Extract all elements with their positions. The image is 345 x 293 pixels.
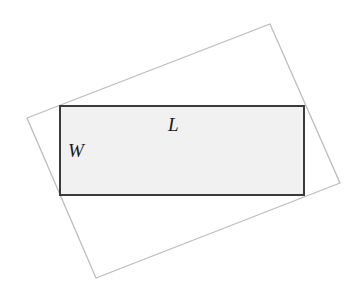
length-label: L bbox=[167, 114, 179, 135]
inner-rectangle bbox=[60, 106, 304, 195]
width-label: W bbox=[68, 140, 86, 161]
rectangle-diagram: L W bbox=[0, 0, 345, 293]
